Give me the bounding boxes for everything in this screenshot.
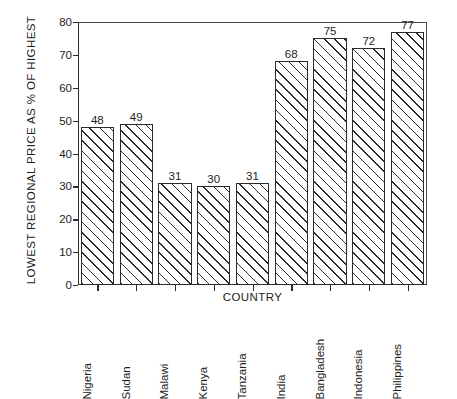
bar-value-label: 30	[207, 173, 220, 185]
x-category-label-slot: Indonesia	[349, 318, 388, 399]
y-axis-title: LOWEST REGIONAL PRICE AS % OF HIGHEST	[25, 15, 37, 285]
bar: 48	[81, 127, 114, 285]
x-category-label-slot: Sudan	[117, 318, 156, 399]
y-tick-mark	[73, 88, 78, 89]
y-axis-line	[78, 22, 79, 285]
x-category-label: Tanzania	[236, 353, 248, 399]
y-tick-label: 40	[46, 148, 72, 160]
x-category-label-slot: Nigeria	[78, 318, 117, 399]
bar: 30	[197, 186, 230, 285]
bar-value-label: 75	[324, 25, 337, 37]
y-tick-label: 10	[46, 246, 72, 258]
y-axis-tick-labels: 01020304050607080	[44, 0, 72, 399]
y-tick-label: 60	[46, 82, 72, 94]
bar: 72	[352, 48, 385, 285]
y-tick-label: 50	[46, 115, 72, 127]
x-category-label-slot: Tanzania	[233, 318, 272, 399]
bar-value-label: 49	[130, 111, 143, 123]
bar: 31	[158, 183, 191, 285]
y-tick-mark	[73, 154, 78, 155]
y-tick-label: 80	[46, 16, 72, 28]
bar-chart: LOWEST REGIONAL PRICE AS % OF HIGHEST 01…	[0, 0, 457, 399]
bar-value-label: 68	[285, 48, 298, 60]
bar-value-label: 31	[246, 170, 259, 182]
x-category-label-slot: Kenya	[194, 318, 233, 399]
x-category-label-slot: Philippines	[388, 318, 427, 399]
x-category-label: Philippines	[392, 343, 404, 399]
y-tick-mark	[73, 219, 78, 220]
y-tick-label: 0	[46, 279, 72, 291]
bar: 77	[391, 32, 424, 285]
x-category-label: Bangladesh	[314, 338, 326, 399]
x-category-label: Indonesia	[353, 349, 365, 399]
y-tick-mark	[73, 186, 78, 187]
bar: 49	[120, 124, 153, 285]
plot-area: 484931303168757277	[78, 22, 427, 285]
y-tick-label: 70	[46, 49, 72, 61]
plot-frame-top-border	[78, 22, 427, 23]
y-tick-mark	[73, 285, 78, 286]
y-tick-mark	[73, 55, 78, 56]
x-category-label: Sudan	[120, 366, 132, 399]
x-axis-category-labels: NigeriaSudanMalawiKenyaTanzaniaIndiaBang…	[78, 318, 427, 399]
x-category-label-slot: Malawi	[156, 318, 195, 399]
bar: 75	[313, 38, 346, 285]
bar-value-label: 72	[362, 35, 375, 47]
x-category-label: Malawi	[159, 363, 171, 399]
bar-value-label: 77	[401, 19, 414, 31]
x-category-label: India	[275, 374, 287, 399]
y-tick-mark	[73, 22, 78, 23]
bar-value-label: 48	[91, 114, 104, 126]
x-category-label-slot: Bangladesh	[311, 318, 350, 399]
plot-frame-right-border	[426, 22, 427, 285]
y-tick-mark	[73, 121, 78, 122]
x-category-label: Kenya	[198, 366, 210, 399]
y-tick-mark	[73, 252, 78, 253]
bar: 31	[236, 183, 269, 285]
y-tick-label: 30	[46, 180, 72, 192]
x-category-label: Nigeria	[81, 363, 93, 399]
bar-value-label: 31	[169, 170, 182, 182]
x-category-label-slot: India	[272, 318, 311, 399]
x-axis-title: COUNTRY	[78, 291, 427, 303]
y-tick-label: 20	[46, 213, 72, 225]
bar: 68	[275, 61, 308, 285]
